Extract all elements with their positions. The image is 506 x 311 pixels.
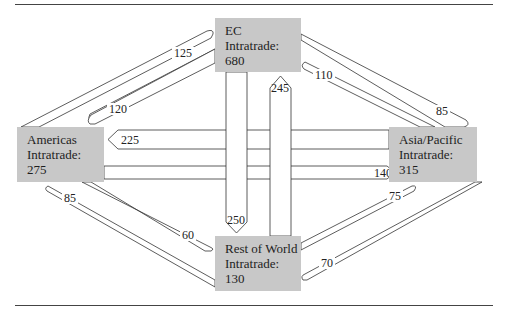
label-ec-to-americas: 120 — [109, 102, 127, 116]
label-americas-to-ec: 125 — [174, 46, 192, 60]
flow-arrow-americas-to-asia — [104, 166, 395, 179]
node-ec: EC Intratrade: 680 — [215, 18, 301, 72]
node-rest-of-world-intratrade-label: Intratrade: — [225, 256, 301, 271]
label-asia-to-row: 70 — [321, 256, 333, 270]
label-americas-to-row: 60 — [182, 228, 194, 242]
node-asia-pacific-intratrade-value: 315 — [399, 162, 477, 177]
flow-arrow-asia-to-americas — [108, 130, 389, 149]
node-rest-of-world-name: Rest of World — [225, 241, 301, 256]
node-rest-of-world-intratrade-value: 130 — [225, 271, 301, 286]
label-row-to-asia: 75 — [389, 189, 401, 203]
node-americas: Americas Intratrade: 275 — [17, 127, 104, 182]
node-ec-name: EC — [225, 23, 301, 38]
flow-arrow-row-to-ec — [270, 76, 291, 236]
node-americas-intratrade-label: Intratrade: — [27, 147, 104, 162]
node-asia-pacific-name: Asia/Pacific — [399, 132, 477, 147]
node-asia-pacific-intratrade-label: Intratrade: — [399, 147, 477, 162]
node-ec-intratrade-label: Intratrade: — [225, 38, 301, 53]
node-americas-name: Americas — [27, 132, 104, 147]
label-ec-to-asia: 85 — [436, 104, 448, 118]
flow-arrow-ec-to-row — [226, 72, 247, 233]
label-row-to-ec: 245 — [271, 81, 289, 95]
label-asia-to-ec: 110 — [315, 68, 333, 82]
label-row-to-americas: 85 — [64, 191, 76, 205]
node-asia-pacific: Asia/Pacific Intratrade: 315 — [389, 127, 477, 182]
node-americas-intratrade-value: 275 — [27, 162, 104, 177]
label-asia-to-americas: 225 — [121, 133, 139, 147]
node-ec-intratrade-value: 680 — [225, 53, 301, 68]
node-rest-of-world: Rest of World Intratrade: 130 — [215, 236, 301, 291]
label-ec-to-row: 250 — [227, 213, 245, 227]
